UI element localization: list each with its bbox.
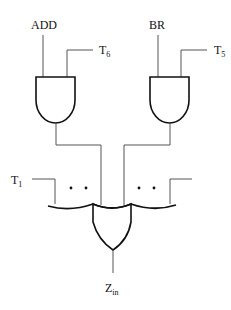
wire-right-input <box>170 179 192 204</box>
logic-diagram: ADD T6 BR T5 T1 Zin <box>0 0 231 310</box>
or-gate-input-bus <box>48 204 176 209</box>
wire-t6 <box>67 50 93 77</box>
wire-t1 <box>32 179 55 204</box>
ellipsis-dot <box>70 187 73 190</box>
and-gate-2 <box>150 77 189 123</box>
label-add: ADD <box>31 18 57 32</box>
label-t5: T5 <box>214 43 225 59</box>
or-gate <box>93 204 131 250</box>
label-t6: T6 <box>99 43 110 59</box>
wire-and2-out <box>124 123 170 205</box>
wire-and1-out <box>56 123 101 205</box>
label-br: BR <box>149 18 165 32</box>
ellipsis-dot <box>85 187 88 190</box>
ellipsis-dot <box>138 187 141 190</box>
label-t1: T1 <box>11 173 22 189</box>
ellipsis-dot <box>153 187 156 190</box>
and-gate-1 <box>36 77 75 123</box>
label-zin: Zin <box>105 281 119 297</box>
wire-t5 <box>181 50 207 77</box>
